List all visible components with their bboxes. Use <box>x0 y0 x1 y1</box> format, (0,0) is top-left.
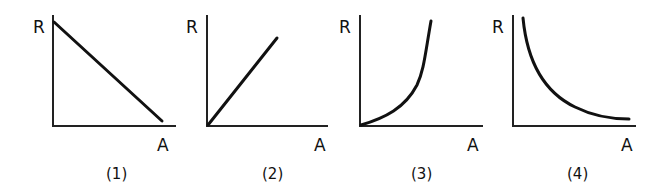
graph-3: R A (3) <box>339 15 483 183</box>
graph-1: R A (1) <box>33 15 176 183</box>
x-axis-label: A <box>621 135 633 155</box>
increasing-line <box>208 38 277 125</box>
graph-caption: (2) <box>262 165 283 183</box>
x-axis-label: A <box>467 135 479 155</box>
decreasing-line <box>54 22 162 121</box>
graph-2: R A (2) <box>186 15 328 183</box>
exponential-curve <box>361 21 431 125</box>
inverse-curve <box>523 18 629 119</box>
y-axis-label: R <box>33 17 45 37</box>
y-axis-label: R <box>339 17 351 37</box>
graph-caption: (1) <box>106 165 127 183</box>
graph-caption: (4) <box>567 165 588 183</box>
graph-4: R A (4) <box>492 15 636 183</box>
y-axis-label: R <box>492 17 504 37</box>
x-axis-label: A <box>314 135 326 155</box>
graphs-figure: R A (1) R A (2) R A (3) R A (4) <box>0 0 661 195</box>
x-axis-label: A <box>157 135 169 155</box>
graph-caption: (3) <box>411 165 432 183</box>
y-axis-label: R <box>186 17 198 37</box>
